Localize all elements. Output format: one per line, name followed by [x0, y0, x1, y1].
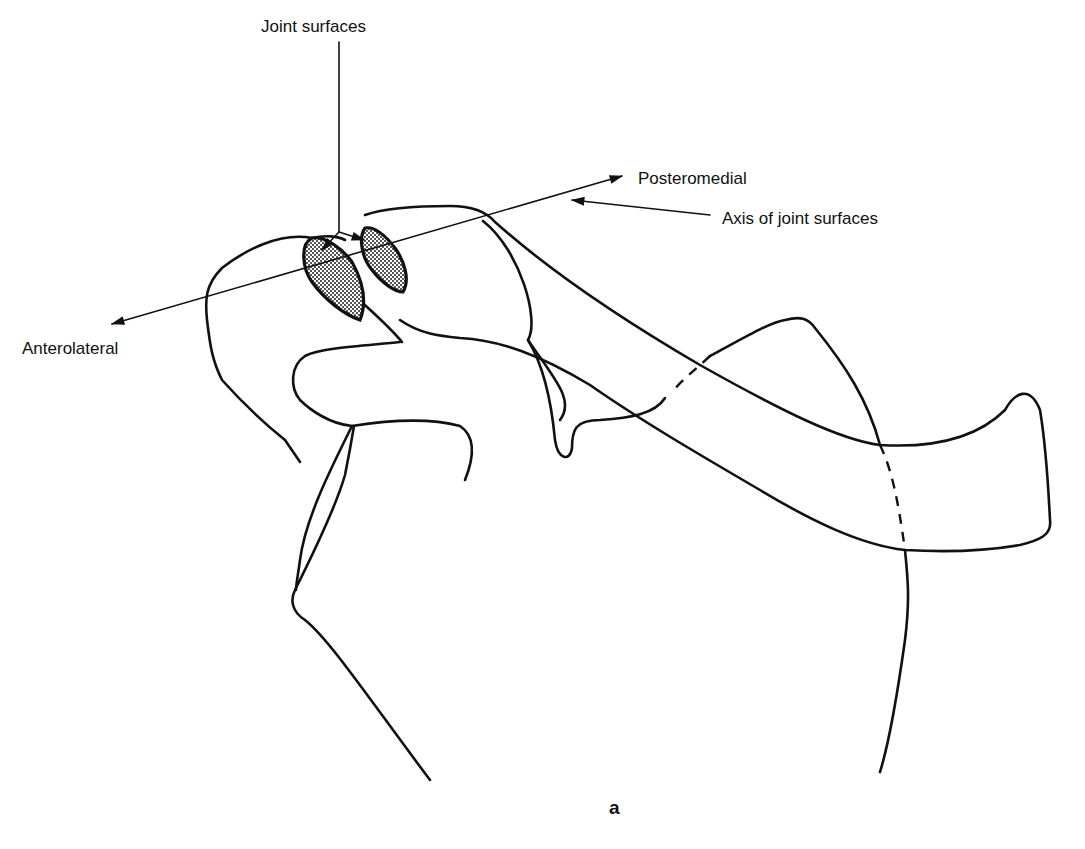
axis-arrow: [112, 176, 622, 324]
diagram-canvas: Joint surfaces Posteromedial Axis of joi…: [0, 0, 1085, 849]
joint-surfaces: [304, 228, 407, 320]
axis-pointer-arrow: [572, 200, 710, 215]
label-anterolateral: Anterolateral: [22, 340, 118, 357]
label-joint-surfaces: Joint surfaces: [261, 18, 366, 35]
label-posteromedial: Posteromedial: [638, 170, 747, 187]
acromial-joint-surface: [304, 238, 364, 320]
joint-drawing: [0, 0, 1085, 849]
clavicle-outline: [365, 206, 1050, 551]
scapula-posterior-outline: [674, 318, 908, 772]
coracoid-outline: [293, 296, 472, 480]
label-axis-of-joint-surfaces: Axis of joint surfaces: [722, 210, 878, 227]
clavicular-joint-surface: [361, 228, 406, 292]
figure-letter: a: [609, 798, 620, 817]
joint-surfaces-leader: [322, 42, 364, 250]
